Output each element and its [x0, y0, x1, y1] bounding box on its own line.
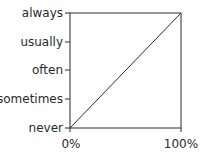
x-axis-ticks	[70, 128, 181, 132]
chart: always usually often sometimes never 0% …	[0, 0, 203, 156]
y-label-sometimes: sometimes	[0, 92, 63, 106]
data-line	[70, 13, 181, 128]
x-label-0: 0%	[61, 137, 80, 151]
y-label-often: often	[32, 63, 63, 77]
x-label-100: 100%	[164, 137, 198, 151]
y-label-never: never	[29, 121, 63, 135]
y-axis-ticks	[65, 13, 70, 128]
y-label-always: always	[22, 6, 63, 20]
y-label-usually: usually	[20, 35, 63, 49]
